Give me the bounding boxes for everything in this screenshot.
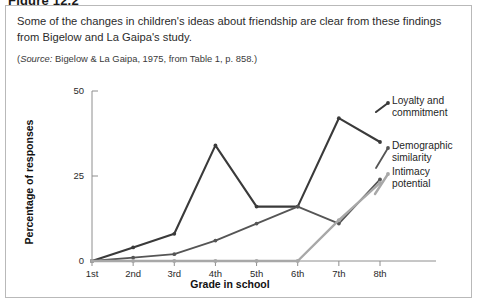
figure-caption: Some of the changes in children's ideas … <box>17 14 458 45</box>
data-point <box>131 256 135 260</box>
data-point <box>255 259 259 263</box>
legend-label-1: Demographic <box>392 140 453 151</box>
data-point <box>255 222 259 226</box>
y-tick-label: 25 <box>73 170 84 181</box>
figure-panel: Some of the changes in children's ideas … <box>5 5 472 298</box>
source-citation: Bigelow & La Gaipa, 1975, from Table 1, … <box>52 53 257 64</box>
data-point <box>172 232 176 236</box>
series-line-2 <box>92 183 380 261</box>
x-tick-label: 8th <box>373 268 386 279</box>
legend-leader-0 <box>376 103 388 112</box>
y-axis-ticks: 02550 <box>73 85 98 266</box>
legend-label-2-line2: potential <box>392 178 431 189</box>
legend-label-1-line2: similarity <box>392 152 433 163</box>
data-point <box>296 205 300 209</box>
y-axis-title: Percentage of responses <box>23 119 35 244</box>
x-tick-label: 6th <box>291 268 304 279</box>
data-point <box>214 239 218 243</box>
data-point <box>90 259 94 263</box>
y-tick-label: 50 <box>73 85 84 96</box>
source-label: Source: <box>20 53 52 64</box>
data-point <box>378 178 382 182</box>
data-point <box>172 252 176 256</box>
data-point <box>337 116 341 120</box>
data-point <box>131 259 135 263</box>
chart-container: 02550 1st2nd3rd4th5th6th7th8th Loyalty a… <box>6 72 473 298</box>
x-axis-title: Grade in school <box>190 278 269 290</box>
legend-label-2: Intimacy <box>392 166 431 177</box>
data-point <box>255 205 259 209</box>
data-point <box>337 218 341 222</box>
legend-label-0-line2: commitment <box>392 107 448 118</box>
chart-legend: Loyalty andcommitmentDemographicsimilari… <box>375 95 453 194</box>
series-line-0 <box>92 118 380 261</box>
series-line-1 <box>92 179 380 261</box>
legend-marker <box>386 172 390 176</box>
x-tick-label: 2nd <box>125 268 141 279</box>
legend-label-0: Loyalty and <box>392 95 444 106</box>
data-point <box>213 259 217 263</box>
x-axis-ticks: 1st2nd3rd4th5th6th7th8th <box>86 261 387 279</box>
legend-leader-1 <box>376 148 388 168</box>
figure-page: Figure 12.2 Some of the changes in child… <box>0 0 479 308</box>
x-tick-label: 3rd <box>167 268 181 279</box>
x-tick-label: 1st <box>86 268 99 279</box>
y-tick-label: 0 <box>79 255 84 266</box>
data-point <box>296 259 300 263</box>
legend-marker <box>386 101 390 105</box>
chart-series <box>90 116 382 263</box>
data-point <box>214 144 218 148</box>
figure-source: (Source: Bigelow & La Gaipa, 1975, from … <box>17 52 458 65</box>
data-point <box>131 246 135 250</box>
chart-axes <box>92 91 436 261</box>
data-point <box>172 259 176 263</box>
legend-marker <box>386 146 390 150</box>
line-chart: 02550 1st2nd3rd4th5th6th7th8th Loyalty a… <box>6 72 473 298</box>
x-tick-label: 7th <box>332 268 345 279</box>
data-point <box>378 140 382 144</box>
